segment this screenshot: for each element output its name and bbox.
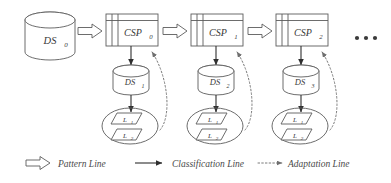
- node-csp2-label: CSP: [294, 27, 312, 38]
- adaptation-line-patterns2-csp2: [322, 52, 337, 130]
- pattern-item-0-1: L 2: [111, 129, 142, 141]
- hollow-arrow-icon: [26, 157, 50, 170]
- node-ds3-subscript: 3: [311, 83, 315, 89]
- node-ds2[interactable]: DS 2: [198, 65, 234, 95]
- pattern-item-1-0-label: L: [207, 116, 212, 124]
- pattern-line-csp0-csp1: [163, 24, 187, 38]
- continuation-ellipsis: [355, 36, 377, 40]
- legend-item-adaptation-line-label: Adaptation Line: [287, 159, 350, 169]
- node-ds0-subscript: 0: [64, 41, 68, 49]
- legend-item-adaptation-line: Adaptation Line: [258, 159, 350, 169]
- node-csp0[interactable]: CSP 0: [106, 14, 158, 46]
- pattern-item-0-1-label: L: [122, 132, 127, 140]
- legend-item-classification-line-label: Classification Line: [172, 159, 244, 169]
- diagram-svg: DS 0 CSP 0 DS 1: [0, 0, 391, 183]
- diagram-canvas: DS 0 CSP 0 DS 1: [0, 0, 391, 183]
- node-csp0-subscript: 0: [149, 33, 153, 40]
- pattern-item-2-0-subscript: 1: [301, 120, 304, 125]
- node-csp1-subscript: 1: [234, 33, 237, 40]
- pattern-item-0-0-label: L: [122, 116, 127, 124]
- pattern-item-1-1: L 2: [196, 129, 227, 141]
- pattern-item-0-0-subscript: 1: [131, 120, 134, 125]
- node-ds3[interactable]: DS 3: [283, 65, 319, 95]
- pattern-line-ds0-csp0: [78, 24, 102, 38]
- pattern-item-2-0: L 1: [281, 113, 312, 125]
- node-csp1-label: CSP: [209, 27, 227, 38]
- node-patterns0[interactable]: L 1 L 2: [102, 108, 158, 144]
- pattern-item-1-1-label: L: [207, 132, 212, 140]
- node-ds3-label: DS: [294, 77, 306, 87]
- pattern-item-0-0: L 1: [111, 113, 142, 125]
- pattern-item-2-0-label: L: [292, 116, 297, 124]
- adaptation-line-patterns1-csp1: [237, 52, 252, 130]
- node-ds2-subscript: 2: [227, 83, 230, 89]
- pattern-item-2-1: L 2: [281, 129, 312, 141]
- pattern-item-2-1-label: L: [292, 132, 297, 140]
- node-ds2-label: DS: [209, 77, 221, 87]
- node-ds1-subscript: 1: [142, 83, 145, 89]
- node-patterns1[interactable]: L 1 L 2: [187, 108, 243, 144]
- node-csp1[interactable]: CSP 1: [191, 14, 243, 46]
- legend-item-pattern-line-label: Pattern Line: [57, 159, 106, 169]
- node-csp2[interactable]: CSP 2: [276, 14, 328, 46]
- adaptation-line-patterns0-csp0: [152, 52, 167, 130]
- pattern-item-1-0-subscript: 1: [216, 120, 219, 125]
- node-csp0-label: CSP: [124, 27, 142, 38]
- node-ds0-label: DS: [43, 35, 58, 46]
- legend: Pattern Line Classification Line Adaptat…: [26, 157, 350, 170]
- pattern-item-1-0: L 1: [196, 113, 227, 125]
- legend-item-pattern-line: Pattern Line: [26, 157, 106, 170]
- node-ds1-label: DS: [124, 77, 136, 87]
- pattern-line-csp1-csp2: [248, 24, 272, 38]
- node-csp2-subscript: 2: [319, 33, 323, 40]
- legend-item-classification-line: Classification Line: [135, 159, 244, 169]
- node-ds0[interactable]: DS 0: [25, 12, 75, 60]
- node-ds1[interactable]: DS 1: [113, 65, 149, 95]
- node-patterns2[interactable]: L 1 L 2: [272, 108, 328, 144]
